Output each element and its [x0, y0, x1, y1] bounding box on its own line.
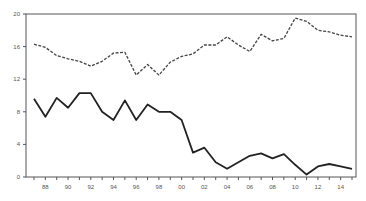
y-tick-label: 12 [13, 76, 20, 82]
y-axis: 048121620 [13, 11, 26, 180]
x-tick-label: 94 [110, 184, 117, 190]
x-tick-label: 04 [224, 184, 231, 190]
x-tick-label: 10 [292, 184, 299, 190]
x-axis: 8890929496980002040608101214 [34, 177, 352, 190]
x-tick-label: 88 [42, 184, 49, 190]
x-tick-label: 06 [246, 184, 253, 190]
series-group [34, 18, 352, 175]
y-tick-label: 16 [13, 44, 20, 50]
x-tick-label: 00 [178, 184, 185, 190]
x-tick-label: 98 [156, 184, 163, 190]
y-tick-label: 0 [17, 174, 21, 180]
x-tick-label: 90 [65, 184, 72, 190]
solid-line [34, 93, 352, 175]
y-tick-label: 4 [17, 141, 21, 147]
x-tick-label: 92 [87, 184, 94, 190]
y-tick-label: 20 [13, 11, 20, 17]
x-tick-label: 96 [133, 184, 140, 190]
dashed-line [34, 18, 352, 75]
y-tick-label: 8 [17, 109, 21, 115]
plot-frame [26, 14, 356, 177]
x-tick-label: 12 [315, 184, 322, 190]
x-tick-label: 08 [269, 184, 276, 190]
x-tick-label: 14 [337, 184, 344, 190]
x-tick-label: 02 [201, 184, 208, 190]
line-chart: 048121620 8890929496980002040608101214 [0, 0, 366, 201]
